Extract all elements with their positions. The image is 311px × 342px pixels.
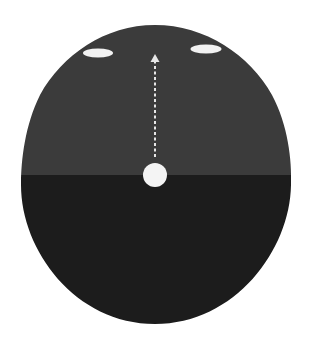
center-dot: [143, 163, 167, 187]
lower-region: [0, 175, 311, 342]
right-ellipse: [191, 45, 222, 54]
left-ellipse: [83, 49, 113, 58]
diagram-canvas: [0, 0, 311, 342]
